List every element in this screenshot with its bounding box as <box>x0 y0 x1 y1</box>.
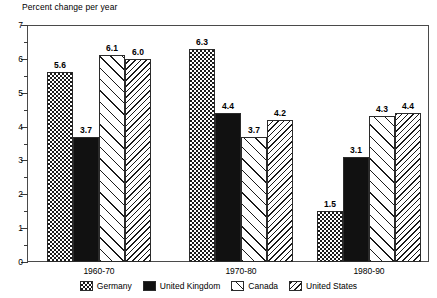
bar <box>99 55 125 262</box>
y-tick-label: 0 <box>7 258 23 266</box>
y-tick-minor <box>24 144 28 145</box>
legend: GermanyUnited KingdomCanadaUnited States <box>0 281 437 291</box>
bar-value-label: 5.6 <box>43 61 77 70</box>
bar-value-label: 3.7 <box>237 126 271 135</box>
bar-value-label: 4.2 <box>263 109 297 118</box>
chart-title: Percent change per year <box>22 2 117 12</box>
legend-item[interactable]: Canada <box>231 281 278 291</box>
bar <box>241 137 267 262</box>
bar-value-label: 6.3 <box>185 38 219 47</box>
y-tick-minor <box>24 110 28 111</box>
bar <box>189 49 215 262</box>
legend-label: Germany <box>97 282 132 291</box>
y-tick-minor <box>24 42 28 43</box>
legend-label: United States <box>306 282 357 291</box>
y-tick-minor <box>24 76 28 77</box>
y-tick-label: 6 <box>7 55 23 63</box>
bar-value-label: 4.4 <box>391 102 425 111</box>
x-category-label: 1980-90 <box>297 266 437 276</box>
bar <box>215 113 241 262</box>
legend-item[interactable]: United Kingdom <box>143 281 220 291</box>
x-category-label: 1970-80 <box>169 266 313 276</box>
legend-item[interactable]: Germany <box>80 281 132 291</box>
x-category-label: 1960-70 <box>27 266 171 276</box>
legend-swatch-icon <box>231 281 244 291</box>
y-tick-label: 1 <box>7 224 23 232</box>
bar <box>267 120 293 262</box>
legend-item[interactable]: United States <box>289 281 357 291</box>
legend-swatch-icon <box>143 281 156 291</box>
y-tick-label: 5 <box>7 89 23 97</box>
legend-label: Canada <box>248 282 278 291</box>
y-tick-label: 2 <box>7 190 23 198</box>
bar-value-label: 1.5 <box>313 200 347 209</box>
bar-value-label: 4.4 <box>211 102 245 111</box>
bar <box>369 116 395 262</box>
y-tick-minor <box>24 211 28 212</box>
legend-label: United Kingdom <box>160 282 220 291</box>
bar <box>343 157 369 262</box>
y-tick-minor <box>24 245 28 246</box>
y-tick-minor <box>24 177 28 178</box>
bar <box>47 72 73 262</box>
bar <box>73 137 99 262</box>
bar <box>317 211 343 262</box>
y-tick-label: 4 <box>7 123 23 131</box>
bar <box>395 113 421 262</box>
y-tick-label: 3 <box>7 156 23 164</box>
bar-value-label: 3.7 <box>69 126 103 135</box>
bar-chart: Percent change per year 01234567 5.63.76… <box>0 0 437 298</box>
bar <box>125 59 151 262</box>
bar-value-label: 6.0 <box>121 48 155 57</box>
bar-value-label: 3.1 <box>339 146 373 155</box>
legend-swatch-icon <box>80 281 93 291</box>
y-tick-label: 7 <box>7 21 23 29</box>
legend-swatch-icon <box>289 281 302 291</box>
